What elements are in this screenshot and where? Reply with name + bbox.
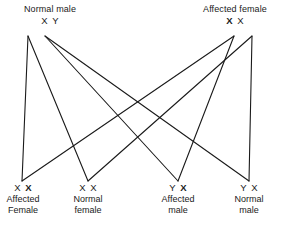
line-father-x-to-child-0 [22,36,28,181]
offspring-0-allele-1: X [12,182,23,194]
offspring-1-label-line2: female [51,205,125,216]
line-mother-x1-to-child-0 [22,36,234,181]
offspring-normal-male: YX Normal male [212,182,285,216]
offspring-0-allele-2: X [23,182,34,194]
offspring-2-allele-1: Y [167,182,178,194]
line-mother-x2-to-child-1 [88,36,252,181]
offspring-affected-male: YX Affected male [141,182,215,216]
line-father-y-to-child-3 [45,36,249,181]
parent-father-allele-1: X [39,15,50,27]
offspring-1-alleles: XX [51,182,125,194]
offspring-normal-female: XX Normal female [51,182,125,216]
offspring-2-alleles: YX [141,182,215,194]
offspring-3-allele-1: Y [238,182,249,194]
parent-father-alleles: XY [0,15,100,27]
offspring-3-label-line2: male [212,205,285,216]
offspring-2-label-line1: Affected [141,194,215,205]
parent-mother-alleles: XX [185,15,285,27]
genetic-cross-diagram: Normal male XY Affected female XX XX Aff… [0,0,285,238]
line-mother-x2-to-child-3 [249,36,252,181]
offspring-3-label-line1: Normal [212,194,285,205]
parent-mother-allele-2: X [235,15,246,27]
offspring-1-allele-2: X [88,182,99,194]
parent-mother-title: Affected female [185,4,285,15]
line-father-x-to-child-1 [28,36,88,181]
offspring-1-label-line1: Normal [51,194,125,205]
parent-father-allele-2: Y [50,15,61,27]
parent-mother: Affected female XX [185,4,285,27]
offspring-2-allele-2: X [178,182,189,194]
line-father-y-to-child-2 [45,36,178,181]
offspring-2-label-line2: male [141,205,215,216]
offspring-1-allele-1: X [77,182,88,194]
offspring-3-allele-2: X [249,182,260,194]
offspring-3-alleles: YX [212,182,285,194]
line-mother-x1-to-child-2 [178,36,234,181]
parent-mother-allele-1: X [224,15,235,27]
parent-father: Normal male XY [0,4,100,27]
parent-father-title: Normal male [0,4,100,15]
